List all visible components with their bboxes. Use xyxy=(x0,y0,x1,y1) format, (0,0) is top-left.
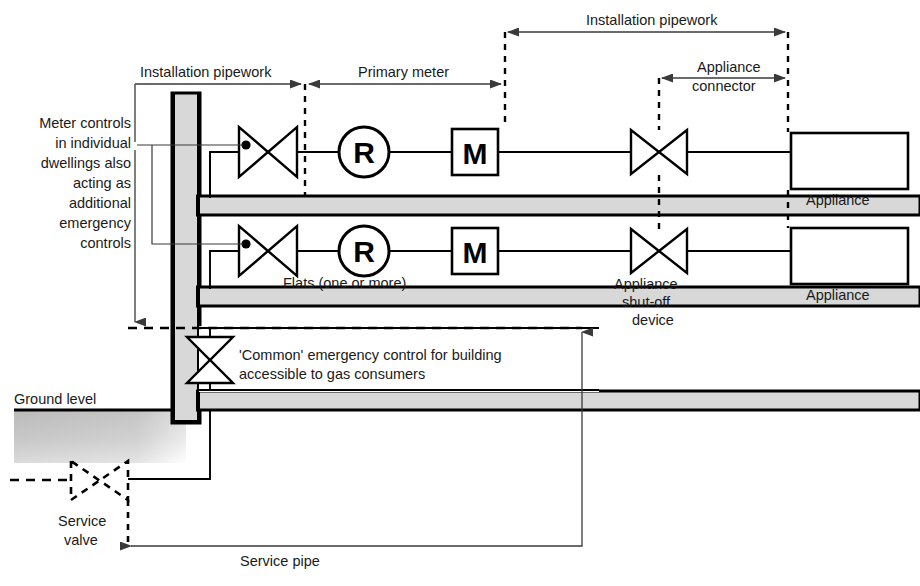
meter-controls-line-4: additional xyxy=(69,195,131,211)
meter-controls-line-5: emergency xyxy=(59,215,131,231)
appliance-box-top xyxy=(791,133,908,189)
appliance-shutoff-label-line1: Appliance xyxy=(614,276,678,292)
flats-label: Flats (one or more) xyxy=(283,275,406,291)
common-control-label-line1: 'Common' emergency control for building xyxy=(239,347,502,363)
meter-controls-text-block: Meter controls in individual dwellings a… xyxy=(39,115,132,251)
service-valve-label-line2: valve xyxy=(64,532,98,548)
regulator-flat-2: R xyxy=(339,226,389,276)
ground-shading xyxy=(14,410,186,463)
appliance-shutoff-label-group: Appliance shut-off device xyxy=(614,276,678,328)
service-pipe-label: Service pipe xyxy=(240,553,320,569)
appliance-label-bottom: Appliance xyxy=(806,287,870,303)
meter-control-valve-flat-1[interactable] xyxy=(239,127,297,177)
primary-meter-label: Primary meter xyxy=(358,64,449,80)
gas-installation-diagram: R M Appliance R M xyxy=(0,0,920,586)
diagram-canvas: R M Appliance R M xyxy=(0,0,920,586)
meter-controls-line-2: dwellings also xyxy=(41,155,131,171)
appliance-shutoff-valve-flat-1[interactable] xyxy=(631,130,687,174)
meter-controls-line-0: Meter controls xyxy=(39,115,131,131)
regulator-letter-flat-1: R xyxy=(353,136,375,169)
primary-meter-flat-1: M xyxy=(452,129,498,175)
appliance-shutoff-label-line3: device xyxy=(632,312,674,328)
meter-letter-flat-1: M xyxy=(463,137,488,170)
meter-controls-line-1: in individual xyxy=(55,135,131,151)
common-control-label-line2: accessible to gas consumers xyxy=(239,366,425,382)
ground-level-label: Ground level xyxy=(14,391,96,407)
horizontal-branch-pipe-3 xyxy=(197,391,920,410)
appliance-connector-label-line1: Appliance xyxy=(697,59,761,75)
top-dimension-lines: Installation pipework Primary meter Inst… xyxy=(135,12,785,142)
installation-pipework-right-label: Installation pipework xyxy=(586,12,718,28)
appliance-connector-label-line2: connector xyxy=(692,78,756,94)
meter-controls-line-3: acting as xyxy=(73,175,131,191)
meter-control-valve-flat-2[interactable] xyxy=(239,226,297,276)
regulator-flat-1: R xyxy=(339,127,389,177)
appliance-label-top: Appliance xyxy=(806,192,870,208)
regulator-letter-flat-2: R xyxy=(353,235,375,268)
primary-meter-flat-2: M xyxy=(452,228,498,274)
common-emergency-control-group: 'Common' emergency control for building … xyxy=(187,326,599,392)
appliance-shutoff-label-line2: shut-off xyxy=(622,294,671,310)
service-valve-label-line1: Service xyxy=(58,513,106,529)
meter-letter-flat-2: M xyxy=(463,236,488,269)
installation-pipework-left-label: Installation pipework xyxy=(140,64,272,80)
meter-controls-line-6: controls xyxy=(80,235,131,251)
appliance-shutoff-valve-flat-2[interactable] xyxy=(631,229,687,273)
appliance-box-bottom xyxy=(791,228,908,284)
service-valve[interactable] xyxy=(71,461,128,500)
